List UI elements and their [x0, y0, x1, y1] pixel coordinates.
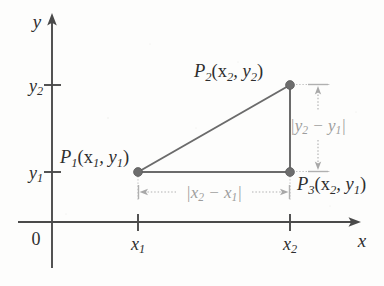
y-tick-label-y2: y2 [27, 76, 43, 98]
point-label-p3: P3(x2, y1) [296, 174, 366, 197]
right-triangle-group [138, 85, 290, 172]
coordinate-diagram: |x2 − x1| |y2 − y1| [0, 0, 384, 286]
horizontal-dim-arrowhead-left [140, 189, 149, 195]
x-axis-label: x [357, 230, 367, 251]
point-marker-p2[interactable] [286, 81, 295, 90]
distance-formula-figure: |x2 − x1| |y2 − y1| [0, 0, 384, 286]
vertical-dim-arrowhead-bottom [315, 162, 321, 171]
horizontal-dim-arrowhead-right [280, 189, 289, 195]
x-tick-label-x1: x1 [130, 234, 145, 256]
y-tick-label-y1: y1 [27, 163, 43, 185]
point-marker-p1[interactable] [134, 168, 143, 177]
point-marker-p3[interactable] [286, 168, 295, 177]
point-label-p1: P1(x1, y1) [59, 147, 129, 170]
horizontal-dimension-label: |x2 − x1| [186, 183, 242, 204]
vertical-dimension-group: |y2 − y1| [290, 85, 346, 172]
triangle-hypotenuse-p1-p2 [138, 85, 290, 172]
horizontal-dimension-group: |x2 − x1| [138, 176, 290, 204]
axes-group [18, 13, 361, 268]
vertical-dimension-label: |y2 − y1| [290, 116, 346, 137]
x-tick-label-x2: x2 [282, 234, 297, 256]
y-axis-label: y [31, 11, 42, 32]
vertical-dim-arrowhead-top [315, 86, 321, 95]
point-label-p2: P2(x2, y2) [193, 61, 263, 84]
origin-label: 0 [32, 229, 41, 249]
